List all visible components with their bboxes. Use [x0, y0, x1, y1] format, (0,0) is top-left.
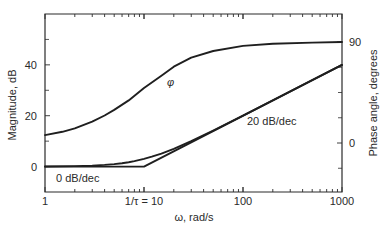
y-tick-label: 20	[25, 110, 37, 122]
y2-tick-label: 0	[349, 137, 355, 149]
x-tick-label: 1	[42, 195, 48, 207]
data-series	[45, 42, 342, 167]
y-tick-label: 0	[31, 161, 37, 173]
annotation-phi: φ	[167, 76, 174, 88]
y-tick-label: 40	[25, 59, 37, 71]
y-axis-label-phase: Phase angle, degrees	[367, 49, 379, 157]
x-tick-label: 1/τ = 10	[125, 195, 163, 207]
x-tick-label: 100	[234, 195, 252, 207]
y2-tick-label: 90	[349, 36, 361, 48]
x-tick-label: 1000	[330, 195, 354, 207]
magnitude-asymptote-line	[45, 65, 342, 167]
annotation-0db-per-dec: 0 dB/dec	[56, 172, 100, 184]
x-axis-label: ω, rad/s	[174, 211, 214, 223]
annotation-20db-per-dec: 20 dB/dec	[247, 115, 297, 127]
magnitude-exact-curve	[45, 65, 342, 167]
y-axis-label-magnitude: Magnitude, dB	[6, 70, 18, 141]
bode-plot: 11/τ = 10100100002040090 ω, rad/s Magnit…	[0, 0, 391, 233]
